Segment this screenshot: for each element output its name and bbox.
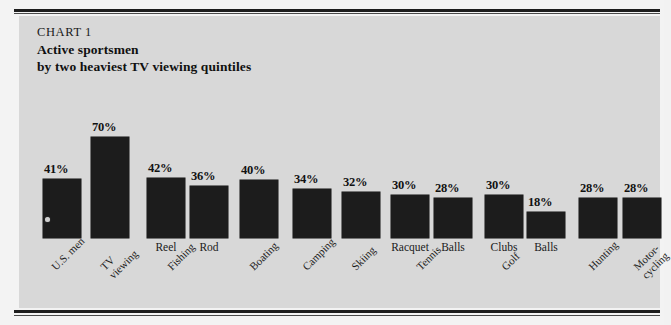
bar — [190, 186, 228, 238]
bar — [43, 179, 81, 238]
bar-value-label: 70% — [92, 120, 116, 135]
bar-value-label: 30% — [392, 178, 416, 193]
bar-value-label: 30% — [486, 178, 510, 193]
bar — [391, 195, 429, 238]
top-rule — [14, 9, 660, 12]
bar-value-label: 34% — [294, 172, 318, 187]
axis-tick-label: U.S. men — [49, 235, 87, 273]
bar — [485, 195, 523, 238]
bar-value-label: 36% — [191, 169, 215, 184]
bar-value-label: 32% — [343, 175, 367, 190]
bottom-rule-thin — [14, 315, 660, 316]
axis-label-line: Skiing — [349, 244, 378, 273]
bar-value-label: 40% — [241, 163, 265, 178]
axis-tick-label: Hunting — [586, 238, 620, 272]
axis-tick-label: Motor-cycling — [631, 241, 671, 281]
bar — [579, 198, 617, 238]
axis-label-line: Hunting — [586, 238, 620, 272]
bar-value-label: 18% — [528, 195, 552, 210]
bar — [434, 198, 472, 238]
bar — [91, 137, 129, 238]
bar — [293, 189, 331, 238]
axis-tick-label: Golf — [499, 250, 522, 273]
axis-tick-label: TVviewing — [98, 239, 140, 281]
plot-area: 41%70%42%Reel36%Rod40%34%32%30%Racquet28… — [19, 16, 660, 308]
bar — [527, 212, 565, 238]
bar-value-label: 28% — [624, 181, 648, 196]
axis-label-line: Boating — [247, 239, 281, 273]
print-speck — [45, 217, 50, 222]
bar-value-label: 42% — [148, 161, 172, 176]
axis-tick-label: Skiing — [349, 244, 378, 273]
bar-value-label: 28% — [580, 181, 604, 196]
chart-panel: CHART 1 Active sportsmen by two heaviest… — [19, 16, 660, 308]
bar-sub-label: Balls — [521, 241, 571, 253]
axis-label-line: Golf — [499, 250, 522, 273]
bar — [147, 178, 185, 238]
bottom-rule — [14, 310, 660, 313]
bar-value-label: 41% — [44, 162, 68, 177]
bar — [240, 180, 278, 238]
axis-label-line: U.S. men — [49, 235, 87, 273]
axis-tick-label: Camping — [300, 235, 337, 272]
top-rule-thin — [14, 13, 660, 14]
axis-tick-label: Boating — [247, 239, 281, 273]
bar-value-label: 28% — [435, 181, 459, 196]
axis-label-line: Camping — [300, 235, 337, 272]
bar — [623, 198, 661, 238]
bar — [342, 192, 380, 238]
